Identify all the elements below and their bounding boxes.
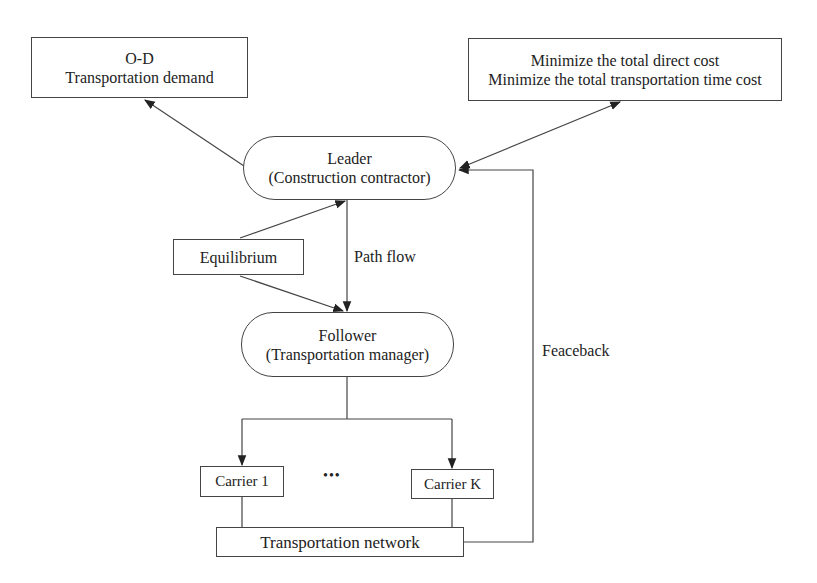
leader-node: Leader (Construction contractor) — [243, 136, 456, 200]
od-demand-box: O-D Transportation demand — [31, 37, 248, 98]
od-subtitle: Transportation demand — [65, 68, 213, 87]
carrier-1-label: Carrier 1 — [215, 472, 269, 491]
ellipsis-icon: ••• — [323, 468, 341, 484]
arrow-equilibrium-to-leader — [240, 201, 345, 238]
leader-title: Leader — [327, 149, 371, 168]
follower-node: Follower (Transportation manager) — [241, 312, 454, 377]
carrier-k-label: Carrier K — [424, 475, 481, 494]
carrier-k-box: Carrier K — [411, 469, 494, 499]
equilibrium-box: Equilibrium — [173, 239, 304, 275]
transportation-network-box: Transportation network — [216, 527, 464, 557]
leader-role: (Construction contractor) — [268, 168, 430, 187]
follower-title: Follower — [319, 326, 377, 345]
arrow-leader-objectives — [460, 102, 620, 168]
arrow-leader-to-od — [145, 100, 244, 166]
equilibrium-label: Equilibrium — [200, 248, 277, 267]
objective-time-cost: Minimize the total transportation time c… — [488, 70, 761, 89]
objective-direct-cost: Minimize the total direct cost — [531, 51, 719, 70]
follower-role: (Transportation manager) — [266, 345, 429, 364]
feedback-label: Feaceback — [542, 341, 610, 360]
arrow-equilibrium-to-follower — [240, 276, 343, 311]
carrier-1-box: Carrier 1 — [200, 466, 284, 497]
path-flow-label: Path flow — [354, 247, 416, 266]
od-title: O-D — [125, 49, 153, 68]
objectives-box: Minimize the total direct cost Minimize … — [468, 38, 782, 101]
network-label: Transportation network — [260, 533, 419, 552]
